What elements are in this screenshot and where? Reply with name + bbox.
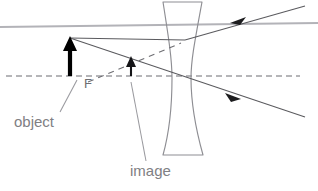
incident-axial-grey-ray bbox=[0, 23, 318, 27]
image-label: image bbox=[130, 163, 171, 178]
object-leader-line bbox=[60, 80, 77, 112]
image-leader-line bbox=[131, 82, 146, 161]
ray-diagram-canvas: object image F bbox=[0, 0, 318, 191]
parallel-incident-ray bbox=[70, 38, 185, 40]
focal-point-label: F bbox=[84, 77, 92, 90]
object-label: object bbox=[14, 114, 54, 129]
through-centre-ray bbox=[70, 38, 305, 117]
